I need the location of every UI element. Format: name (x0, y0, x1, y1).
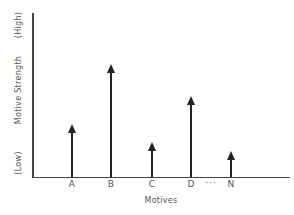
x-label-d: D (187, 179, 194, 189)
arrow-a (71, 131, 73, 177)
arrowhead-icon (187, 96, 195, 105)
y-high-label: (High) (14, 12, 23, 38)
y-low-label: (Low) (14, 151, 23, 175)
x-label-n: N (228, 179, 235, 189)
y-axis-title: Motive Strength (14, 56, 23, 124)
arrow-c (151, 149, 153, 177)
arrow-d (190, 103, 192, 177)
x-label-c: C (149, 179, 155, 189)
x-axis-title: Motives (144, 196, 177, 205)
arrowhead-icon (107, 64, 115, 73)
arrow-b (110, 71, 112, 177)
y-axis (32, 13, 34, 178)
x-label-a: A (69, 179, 75, 189)
arrowhead-icon (68, 124, 76, 133)
arrowhead-icon (148, 142, 156, 151)
x-ellipsis: ··· (205, 178, 217, 188)
arrowhead-icon (227, 151, 235, 160)
x-label-b: B (108, 179, 114, 189)
arrow-n (230, 158, 232, 177)
motive-strength-chart: (High) Motive Strength (Low) A B C D ···… (0, 0, 294, 215)
